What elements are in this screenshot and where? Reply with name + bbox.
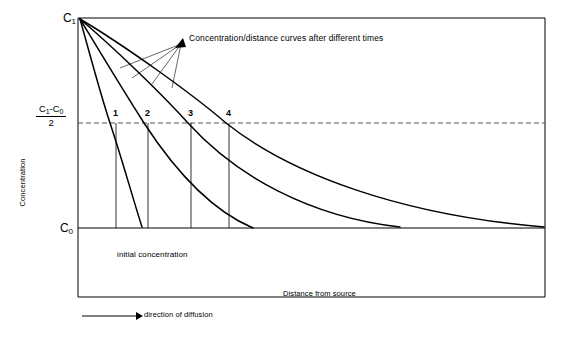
direction-of-diffusion-arrow — [82, 312, 143, 320]
diffusion-diagram: C1 C0 C1-C0 2 Concentration Distance fro… — [0, 0, 574, 346]
crossing-drop-lines — [116, 123, 229, 228]
x-axis-title: Distance from source — [283, 289, 356, 298]
c1-axis-label: C1 — [63, 11, 76, 25]
c0-axis-label: C0 — [60, 221, 73, 235]
curve-number-4: 4 — [226, 108, 231, 118]
annotation-arrowhead — [175, 38, 186, 48]
half-concentration-label: C1-C0 2 — [36, 104, 66, 129]
curves-annotation-label: Concentration/distance curves after diff… — [189, 33, 383, 43]
curve-number-1: 1 — [113, 108, 118, 118]
half-concentration-denominator: 2 — [36, 117, 66, 129]
direction-of-diffusion-label: direction of diffusion — [144, 310, 213, 319]
curve-number-2: 2 — [145, 108, 150, 118]
initial-concentration-label: initial concentration — [117, 250, 188, 259]
curve-number-3: 3 — [188, 108, 193, 118]
y-axis-title: Concentration — [18, 140, 27, 226]
half-concentration-numerator: C1-C0 — [36, 104, 66, 117]
